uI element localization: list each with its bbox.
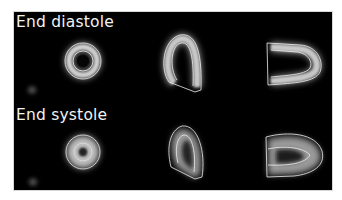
artifact-spot — [29, 179, 37, 186]
systole-horizontal-long-axis — [266, 134, 323, 177]
systole-short-axis — [66, 135, 100, 169]
diastole-short-axis — [65, 43, 101, 79]
scan-image — [14, 12, 333, 191]
artifact-spot — [28, 87, 36, 94]
systole-vertical-long-axis — [169, 126, 203, 179]
cardiac-scan-panel: End diastole End systole — [13, 11, 333, 191]
end-diastole-label: End diastole — [16, 15, 114, 31]
diastole-vertical-long-axis — [164, 35, 201, 92]
diastole-horizontal-long-axis — [267, 43, 321, 85]
end-systole-label: End systole — [16, 108, 107, 124]
